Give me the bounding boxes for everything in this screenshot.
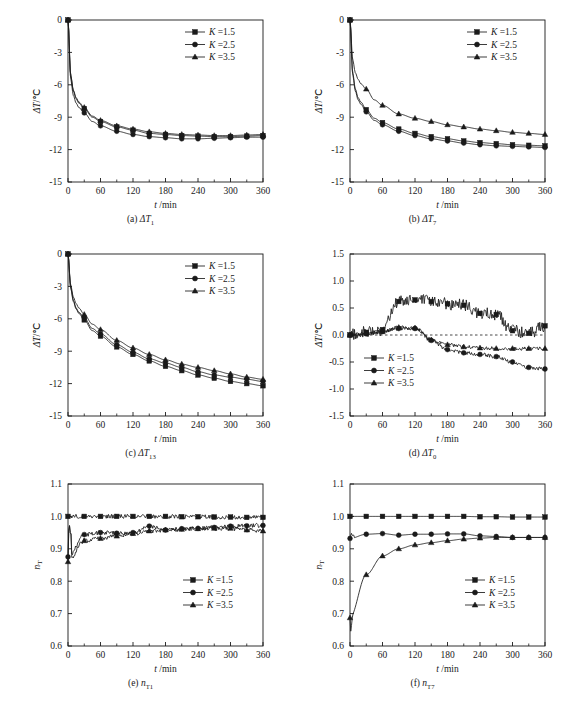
data-point-marker (179, 514, 184, 519)
x-tick-label: 180 (158, 186, 173, 196)
caption-index: (b) (409, 214, 420, 224)
y-tick-label: -9 (336, 113, 344, 123)
y-axis-b: 0-3-6-9-12-15 (331, 15, 354, 187)
y-tick-label: 0.9 (50, 544, 62, 554)
y-tick-label: 0.0 (332, 330, 344, 340)
legend-label: K =3.5 (488, 600, 515, 610)
data-point-marker (193, 264, 198, 269)
data-point-marker (147, 514, 152, 519)
x-tick-label: 180 (440, 650, 455, 660)
y-axis-label: ΔT/℃ (314, 323, 324, 349)
series-c-1 (66, 252, 266, 384)
subplot-e: 0601201802403003601.11.00.90.80.70.6K =1… (0, 458, 281, 694)
x-tick-label: 120 (408, 650, 423, 660)
x-tick-label: 360 (256, 186, 271, 196)
legend-label: K =1.5 (490, 27, 517, 37)
y-tick-label: 0.7 (332, 609, 344, 619)
x-tick-label: 60 (96, 186, 106, 196)
data-point-marker (445, 139, 450, 144)
x-tick-label: 300 (505, 650, 520, 660)
caption-symbol: ΔT (140, 214, 151, 224)
caption-subscript: T1 (146, 683, 153, 690)
series-f-2 (347, 535, 548, 632)
data-point-marker (461, 141, 466, 146)
caption-index: (e) (128, 678, 139, 688)
x-tick-label: 360 (256, 420, 271, 430)
x-tick-label: 120 (408, 186, 423, 196)
data-point-marker (510, 144, 515, 149)
data-point-marker (131, 514, 136, 519)
series-f-0 (348, 514, 548, 519)
x-axis-label: t /min (436, 434, 459, 444)
y-axis-label: nT (32, 560, 44, 570)
data-point-marker (348, 536, 353, 541)
subplot-caption-e: (e) nT1 (0, 678, 281, 690)
data-point-marker (179, 136, 184, 141)
y-tick-label: -15 (331, 177, 344, 187)
series-e-2 (65, 526, 266, 564)
x-tick-label: 60 (378, 420, 388, 430)
legend-e: K =1.5K =2.5K =3.5 (183, 575, 233, 610)
y-tick-label: -15 (49, 177, 62, 187)
x-tick-label: 0 (348, 420, 353, 430)
data-point-marker (526, 331, 531, 336)
figure-root: 0601201802403003600-3-6-9-12-15K =1.5K =… (0, 0, 563, 709)
data-point-marker (228, 515, 233, 520)
legend-label: K =3.5 (208, 52, 235, 62)
x-tick-label: 0 (348, 186, 353, 196)
data-point-marker (82, 532, 87, 537)
y-axis-e: 1.11.00.90.80.70.6 (50, 479, 72, 651)
y-tick-label: -6 (54, 314, 62, 324)
data-point-marker (114, 342, 119, 347)
data-point-marker (347, 615, 353, 620)
data-point-marker (475, 30, 480, 35)
data-point-marker (228, 379, 233, 384)
x-tick-label: 360 (538, 420, 553, 430)
x-tick-label: 300 (223, 420, 238, 430)
data-point-marker (147, 134, 152, 139)
plot-frame-f (350, 484, 545, 646)
data-point-marker (396, 129, 401, 134)
x-axis-f: 060120180240300360 (348, 642, 553, 660)
data-point-marker (396, 299, 401, 304)
y-tick-label: -12 (49, 145, 62, 155)
legend-label: K =1.5 (387, 353, 414, 363)
x-tick-label: 0 (66, 186, 71, 196)
caption-subscript: 7 (433, 219, 436, 226)
data-point-marker (478, 352, 483, 357)
data-point-marker (510, 360, 515, 365)
data-point-marker (461, 514, 466, 519)
data-point-marker (543, 367, 548, 372)
y-tick-label: 1.0 (50, 512, 62, 522)
y-tick-label: 0 (57, 249, 62, 259)
data-point-marker (472, 590, 477, 595)
x-axis-d: 060120180240300360 (348, 412, 553, 430)
x-axis-label: t /min (436, 200, 459, 210)
series-a-1 (66, 18, 266, 142)
data-point-marker (543, 324, 548, 329)
y-axis-label: ΔT/℃ (32, 89, 42, 115)
data-point-marker (445, 347, 450, 352)
y-tick-label: 1.0 (332, 512, 344, 522)
y-tick-label: 0 (57, 15, 62, 25)
data-point-marker (526, 365, 531, 370)
x-tick-label: 60 (96, 650, 106, 660)
data-point-marker (98, 514, 103, 519)
data-point-marker (472, 602, 478, 607)
x-tick-label: 240 (473, 420, 488, 430)
series-a-0 (66, 18, 266, 139)
data-point-marker (131, 132, 136, 137)
caption-index: (c) (125, 448, 136, 458)
x-tick-label: 240 (191, 186, 206, 196)
data-point-marker (478, 311, 483, 316)
y-tick-label: 0.8 (332, 577, 344, 587)
x-tick-label: 300 (505, 420, 520, 430)
legend-d: K =1.5K =2.5K =3.5 (364, 353, 414, 388)
x-tick-label: 300 (223, 650, 238, 660)
legend-label: K =2.5 (488, 588, 515, 598)
caption-subscript: T7 (427, 683, 434, 690)
series-c-2 (65, 251, 266, 381)
y-tick-label: -0.5 (329, 357, 344, 367)
data-point-marker (190, 602, 196, 607)
y-tick-label: -15 (49, 411, 62, 421)
